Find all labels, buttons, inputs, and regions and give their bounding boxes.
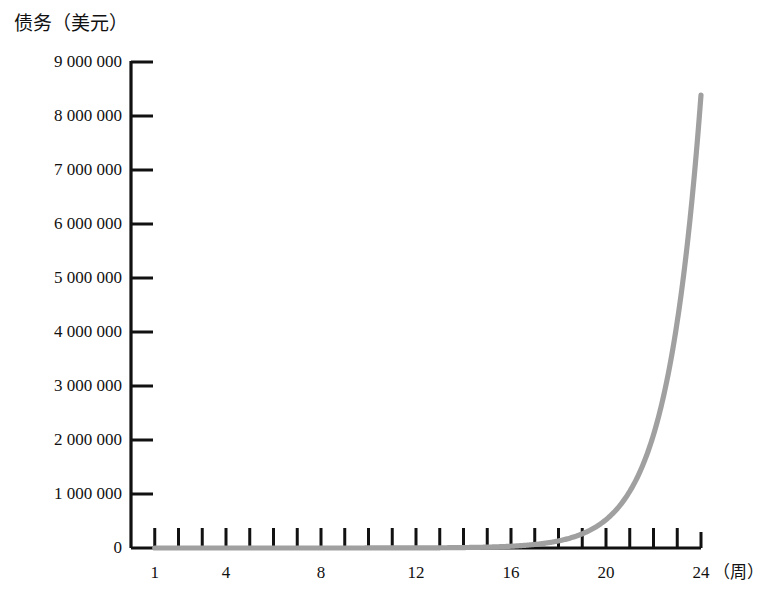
axes bbox=[131, 61, 701, 548]
debt-curve bbox=[155, 95, 701, 548]
tick-marks bbox=[131, 62, 701, 548]
exponential-debt-chart: 债务（美元） 01 000 0002 000 0003 000 0004 000… bbox=[0, 0, 762, 594]
plot-area bbox=[0, 0, 762, 594]
